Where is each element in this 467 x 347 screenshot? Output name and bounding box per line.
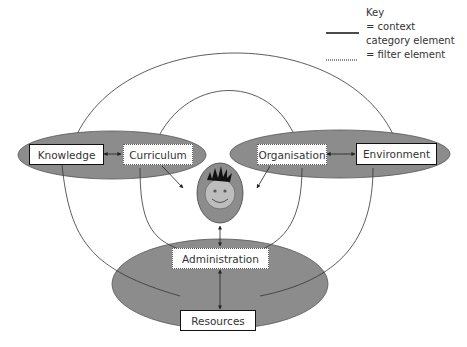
legend-solid-label: = context	[366, 20, 455, 34]
node-administration: Administration	[172, 248, 269, 269]
node-curriculum: Curriculum	[123, 144, 193, 165]
legend-title: Key	[366, 6, 455, 20]
legend-solid-label-cont: category element	[366, 34, 455, 48]
legend-dotted-label: = filter element	[366, 48, 455, 62]
node-resources: Resources	[180, 310, 256, 331]
node-knowledge: Knowledge	[29, 144, 104, 165]
legend: Key = context category element = filter …	[366, 6, 455, 62]
node-organisation: Organisation	[257, 144, 327, 165]
node-environment: Environment	[356, 143, 437, 165]
